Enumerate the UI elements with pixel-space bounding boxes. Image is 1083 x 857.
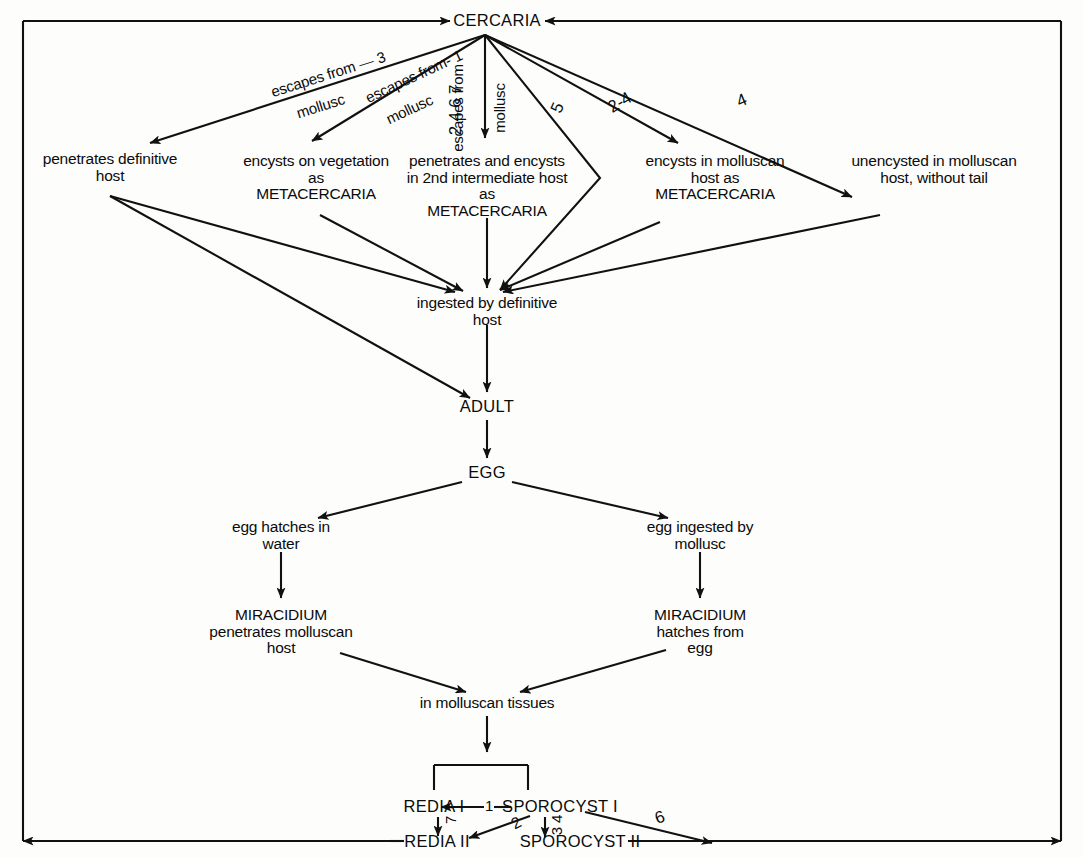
edge-encysts-vegetation-to-ingested: [320, 215, 463, 291]
egg-split-edges: [281, 482, 700, 598]
node-miracidium-penetrates-molluscan-host: MIRACIDIUM penetrates molluscan host: [209, 607, 352, 657]
edge-encysts-molluscan-to-ingested: [500, 222, 660, 290]
miracidium-converge-edges: [340, 650, 666, 692]
node-egg: EGG: [468, 464, 506, 482]
node-redia-i: REDIA I: [404, 798, 465, 816]
node-encysts-in-molluscan-host: encysts in molluscan host as METACERCARI…: [645, 153, 784, 203]
edge-unencysted-to-ingested: [503, 215, 880, 292]
tissues-bracket-edges: [434, 716, 528, 790]
edge-label-redia-to-redia-ii-num: 7: [443, 816, 459, 824]
node-egg-ingested-by-mollusc: egg ingested by mollusc: [647, 519, 753, 552]
life-cycle-diagram: CERCARIA penetrates definitive host ency…: [0, 0, 1083, 857]
edge-miracidium-penetrates-to-tissues: [340, 653, 466, 692]
edge-label-mollusc-sub-center: mollusc: [492, 43, 507, 173]
node-penetrates-definitive-host: penetrates definitive host: [43, 151, 178, 184]
node-sporocyst-i: SPOROCYST I: [502, 798, 618, 816]
edge-label-escapes-text-center: escapes from: [450, 43, 465, 173]
edge-egg-to-hatches-in-water: [318, 482, 462, 518]
edge-egg-to-ingested-by-mollusc: [512, 482, 668, 518]
node-sporocyst-ii: SPOROCYST II: [520, 833, 641, 851]
node-ingested-by-definitive-host: ingested by definitive host: [417, 295, 557, 328]
edge-penetrates-definitive-to-ingested: [110, 196, 455, 292]
edge-label-redia-sporocyst-link-num: 1: [485, 798, 493, 814]
node-egg-hatches-in-water: egg hatches in water: [232, 519, 330, 552]
node-miracidium-hatches-from-egg: MIRACIDIUM hatches from egg: [654, 607, 746, 657]
node-unencysted-in-molluscan-host: unencysted in molluscan host, without ta…: [851, 153, 1016, 186]
diagram-lines-layer: [0, 0, 1083, 857]
edge-label-escapes-from-mollusc-center: escapes from mollusc: [420, 43, 537, 173]
edge-miracidium-hatches-to-tissues: [520, 650, 666, 692]
node-adult: ADULT: [460, 398, 514, 416]
node-in-molluscan-tissues: in molluscan tissues: [420, 695, 555, 712]
outer-frame-path: [23, 21, 1061, 841]
edge-label-sporocyst-to-sporocyst-ii-num: 3 4: [549, 815, 565, 835]
node-redia-ii: REDIA II: [404, 833, 470, 851]
